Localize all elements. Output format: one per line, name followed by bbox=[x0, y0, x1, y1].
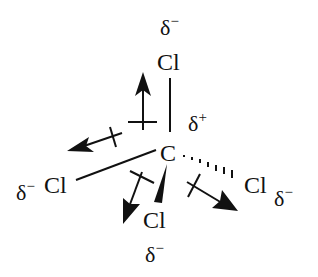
dipole-arrow-right bbox=[187, 174, 238, 211]
top-cl-charge: δ− bbox=[160, 13, 179, 40]
top-cl-label: Cl bbox=[157, 49, 180, 75]
bottom-cl-charge: δ− bbox=[145, 240, 164, 267]
bond-hash-right bbox=[184, 155, 232, 178]
bond-wedge-bottom bbox=[154, 164, 167, 203]
molecule-drawing: C δ+ δ− Cl δ− Cl Cl δ− Cl δ− bbox=[0, 0, 318, 277]
left-cl-label: Cl bbox=[44, 172, 67, 198]
central-charge: δ+ bbox=[188, 109, 207, 136]
dipole-arrow-left bbox=[67, 127, 122, 152]
ccl4-diagram: C δ+ δ− Cl δ− Cl Cl δ− Cl δ− bbox=[0, 0, 318, 277]
left-cl-charge: δ− bbox=[16, 178, 35, 205]
right-cl-label: Cl bbox=[244, 172, 267, 198]
central-atom-label: C bbox=[160, 140, 176, 166]
bond-left bbox=[76, 150, 156, 180]
right-cl-charge: δ− bbox=[274, 184, 293, 211]
dipole-arrow-top bbox=[128, 72, 157, 130]
bottom-cl-label: Cl bbox=[143, 207, 166, 233]
